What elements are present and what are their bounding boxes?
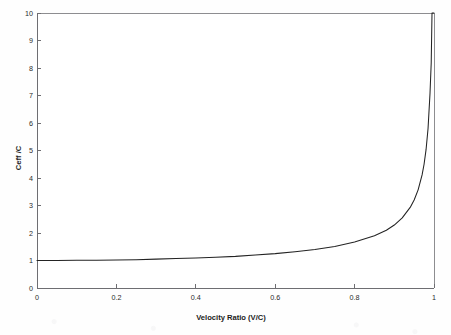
x-tick-label: 0.6: [270, 293, 280, 302]
y-axis-title: Ceff /C: [14, 145, 23, 170]
plot-background: [37, 13, 434, 288]
y-tick-label: 3: [29, 201, 33, 210]
x-axis-title: Velocity Ratio (V/C): [196, 313, 266, 322]
y-tick-label: 9: [29, 36, 33, 45]
line-chart: 012345678910 00.20.40.60.81 Ceff /C Velo…: [0, 0, 451, 335]
x-tick-label: 0.4: [191, 293, 201, 302]
y-tick-label: 2: [29, 229, 33, 238]
y-tick-label: 6: [29, 119, 33, 128]
chart-figure: 012345678910 00.20.40.60.81 Ceff /C Velo…: [0, 0, 451, 335]
x-tick-label: 0.8: [350, 293, 360, 302]
x-tick-label: 0.2: [111, 293, 121, 302]
y-tick-label: 4: [29, 174, 33, 183]
y-tick-label: 0: [29, 284, 33, 293]
y-tick-label: 7: [29, 91, 33, 100]
x-tick-label: 0: [35, 293, 39, 302]
y-tick-label: 10: [25, 9, 33, 18]
y-tick-label: 1: [29, 256, 33, 265]
x-tick-label: 1: [432, 293, 436, 302]
y-tick-label: 5: [29, 146, 33, 155]
y-tick-label: 8: [29, 64, 33, 73]
